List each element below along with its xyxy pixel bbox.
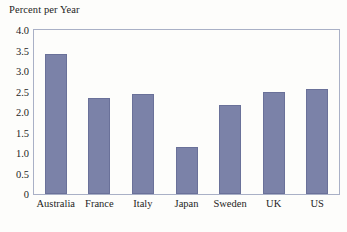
y-axis-tick-label: 2.0 bbox=[16, 107, 29, 118]
x-axis-tick-label: UK bbox=[266, 198, 281, 209]
bar-slot bbox=[263, 30, 285, 194]
bar bbox=[219, 105, 241, 194]
y-axis-tick-label: 3.0 bbox=[16, 66, 29, 77]
x-axis-tick-label: US bbox=[310, 198, 323, 209]
bars-container bbox=[34, 30, 339, 194]
bar bbox=[88, 98, 110, 194]
y-axis-title: Percent per Year bbox=[9, 4, 80, 15]
x-axis-tick-label: Italy bbox=[133, 198, 152, 209]
bar bbox=[132, 94, 154, 194]
y-axis-tick-label: 0.5 bbox=[16, 168, 29, 179]
bar-slot bbox=[132, 30, 154, 194]
y-axis-tick-label: 0 bbox=[24, 189, 29, 200]
bar bbox=[263, 92, 285, 194]
y-axis-tick-label: 4.0 bbox=[16, 25, 29, 36]
y-axis-tick-label: 1.0 bbox=[16, 148, 29, 159]
bar-slot bbox=[306, 30, 328, 194]
bar-chart: Percent per Year 00.51.01.52.02.53.03.54… bbox=[0, 0, 347, 232]
bar bbox=[306, 89, 328, 194]
y-axis-tick-label: 3.5 bbox=[16, 45, 29, 56]
bar-slot bbox=[219, 30, 241, 194]
x-axis-tick-label: Japan bbox=[175, 198, 199, 209]
bar bbox=[176, 147, 198, 194]
bar-slot bbox=[176, 30, 198, 194]
bar bbox=[45, 54, 67, 194]
bar-slot bbox=[45, 30, 67, 194]
x-axis-tick-label: Australia bbox=[37, 198, 76, 209]
y-axis-tick-label: 2.5 bbox=[16, 86, 29, 97]
y-axis-tick-labels: 00.51.01.52.02.53.03.54.0 bbox=[0, 29, 29, 195]
bar-slot bbox=[88, 30, 110, 194]
x-axis-tick-label: France bbox=[85, 198, 114, 209]
x-axis-tick-labels: AustraliaFranceItalyJapanSwedenUKUS bbox=[34, 198, 339, 218]
y-axis-tick-label: 1.5 bbox=[16, 127, 29, 138]
x-axis-tick-label: Sweden bbox=[213, 198, 246, 209]
